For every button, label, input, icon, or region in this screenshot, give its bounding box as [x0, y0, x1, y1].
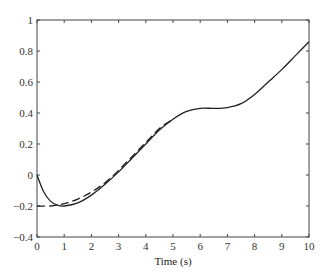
- x-tick-label: 4: [143, 240, 149, 252]
- y-tick-label: 0.6: [19, 76, 33, 88]
- x-tick-label: 7: [225, 240, 231, 252]
- y-tick-label: 0.2: [19, 138, 33, 150]
- y-tick-label: −0.2: [13, 200, 33, 212]
- x-tick-label: 1: [61, 240, 67, 252]
- dashed-series-line: [37, 119, 173, 206]
- x-tick-label: 8: [252, 240, 258, 252]
- y-tick-label: 0.4: [19, 107, 33, 119]
- x-axis-label: Time (s): [154, 255, 192, 268]
- series-layer: [37, 42, 309, 206]
- x-tick-label: 2: [89, 240, 95, 252]
- y-tick-label: 0.8: [19, 45, 33, 57]
- y-tick-label: −0.4: [13, 231, 33, 243]
- x-tick-label: 9: [279, 240, 285, 252]
- plot-frame: [37, 20, 309, 237]
- y-tick-label: 0: [28, 169, 34, 181]
- x-tick-label: 6: [197, 240, 203, 252]
- plot-border: [37, 20, 309, 237]
- y-tick-label: 1: [28, 14, 34, 26]
- x-tick-label: 10: [304, 240, 316, 252]
- x-tick-label: 5: [170, 240, 176, 252]
- x-tick-label: 3: [116, 240, 122, 252]
- line-chart: 012345678910−0.4−0.200.20.40.60.81 Time …: [0, 0, 326, 276]
- solid-series-line: [37, 42, 309, 206]
- x-tick-label: 0: [34, 240, 40, 252]
- axis-ticks: 012345678910−0.4−0.200.20.40.60.81: [13, 14, 315, 252]
